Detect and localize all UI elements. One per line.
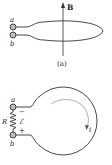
arrowhead-up-icon	[61, 2, 65, 8]
terminal-b-bottom	[10, 132, 16, 138]
terminal-a-top	[10, 24, 16, 30]
diagram-canvas: a b B (a) a b R ℰ − + i	[0, 0, 112, 165]
wire-loop-b	[16, 87, 97, 155]
label-field-B: B	[67, 3, 73, 12]
label-a-bottom: a	[11, 96, 15, 104]
label-emf: ℰ	[19, 118, 24, 126]
wire-loop-a	[16, 21, 103, 41]
current-direction-arrow	[51, 100, 88, 127]
figure-a: a b B (a)	[10, 2, 103, 68]
label-resistor: R	[1, 118, 8, 126]
resistor-symbol	[10, 110, 16, 132]
label-b-bottom: b	[10, 140, 15, 148]
label-a-top: a	[10, 16, 14, 24]
figure-b: a b R ℰ − + i	[1, 87, 97, 155]
caption-a: (a)	[57, 60, 67, 68]
label-minus: −	[19, 108, 25, 116]
label-current: i	[89, 126, 91, 134]
terminal-b-top	[10, 32, 16, 38]
terminal-a-bottom	[10, 104, 16, 110]
label-b-top: b	[10, 40, 15, 48]
label-plus: +	[19, 127, 25, 135]
